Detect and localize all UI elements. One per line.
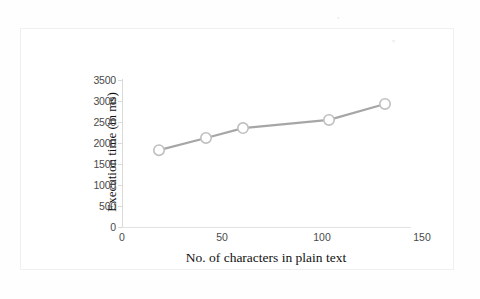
data-point-marker [238, 123, 248, 133]
data-point-marker [201, 133, 211, 143]
x-axis-title: No. of characters in plain text [122, 250, 410, 266]
line-chart: Execution time (in ms) 05001000150020002… [0, 0, 480, 299]
data-point-marker [324, 115, 334, 125]
data-point-marker [380, 99, 390, 109]
chart-page: • • Execution time (in ms) 0500100015002… [0, 0, 480, 299]
series-polyline [159, 104, 385, 150]
data-point-marker [154, 145, 164, 155]
